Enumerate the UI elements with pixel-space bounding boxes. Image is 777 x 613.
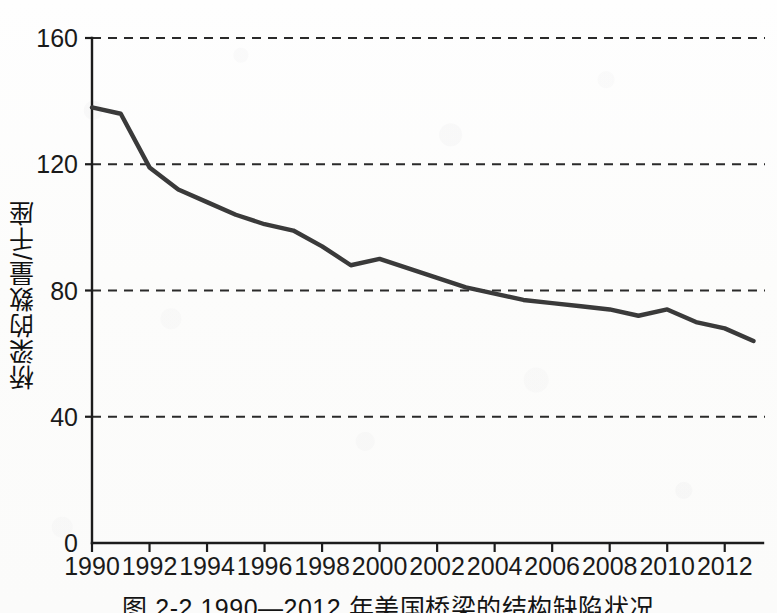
figure-caption: 图 2-2 1990—2012 年美国桥梁的结构缺陷状况 xyxy=(0,588,777,613)
y-tick-label-120: 120 xyxy=(36,150,78,178)
gridlines-group xyxy=(92,38,765,417)
x-tick-label-1996: 1996 xyxy=(237,552,293,580)
x-tick-marks-group xyxy=(92,543,725,552)
x-tick-label-1992: 1992 xyxy=(122,552,178,580)
x-tick-label-2004: 2004 xyxy=(467,552,523,580)
x-tick-label-1998: 1998 xyxy=(294,552,350,580)
x-tick-label-1994: 1994 xyxy=(179,552,235,580)
x-tick-label-2010: 2010 xyxy=(639,552,695,580)
x-tick-label-1990: 1990 xyxy=(64,552,120,580)
y-axis-title: 桥梁的数量/千座 xyxy=(6,150,40,440)
x-tick-labels-group: 1990199219941996199820002002200420062008… xyxy=(64,552,752,580)
x-tick-label-2000: 2000 xyxy=(352,552,408,580)
x-tick-label-2012: 2012 xyxy=(697,552,753,580)
y-tick-label-40: 40 xyxy=(50,403,78,431)
line-chart: 04080120160 1990199219941996199820002002… xyxy=(0,0,777,613)
y-tick-labels-group: 04080120160 xyxy=(36,24,92,557)
x-tick-label-2006: 2006 xyxy=(524,552,580,580)
y-tick-label-160: 160 xyxy=(36,24,78,52)
x-tick-label-2002: 2002 xyxy=(409,552,465,580)
y-tick-label-80: 80 xyxy=(50,277,78,305)
x-tick-label-2008: 2008 xyxy=(582,552,638,580)
figure-page: 04080120160 1990199219941996199820002002… xyxy=(0,0,777,613)
data-series-line xyxy=(92,107,754,341)
